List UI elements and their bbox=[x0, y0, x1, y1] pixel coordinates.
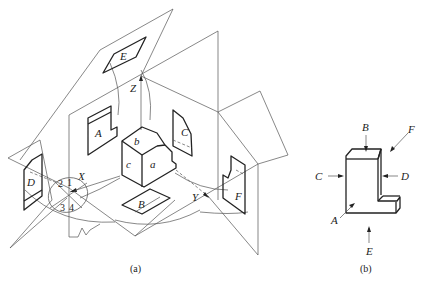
svg-text:E: E bbox=[119, 50, 127, 62]
svg-text:b: b bbox=[134, 135, 140, 147]
svg-text:A: A bbox=[330, 214, 338, 226]
z-arrow-icon bbox=[139, 75, 143, 81]
axes: Z X Y bbox=[70, 75, 209, 203]
arrow-e-icon bbox=[367, 226, 371, 232]
caption-b: (b) bbox=[360, 263, 372, 275]
svg-text:E: E bbox=[365, 245, 373, 257]
view-direction-arrows: B F C D A E bbox=[315, 121, 415, 257]
projection-e: E bbox=[103, 37, 146, 73]
svg-text:B: B bbox=[362, 121, 369, 133]
z-axis-label: Z bbox=[130, 82, 137, 94]
arrow-f-icon bbox=[390, 146, 395, 152]
projection-planes bbox=[8, 9, 288, 255]
projection-diagram: Z X Y 2 1 3 4 E A C bbox=[0, 0, 421, 283]
svg-text:2: 2 bbox=[58, 178, 63, 189]
svg-text:C: C bbox=[315, 170, 323, 182]
svg-text:F: F bbox=[407, 123, 415, 135]
svg-text:3: 3 bbox=[60, 202, 65, 213]
projection-d: D bbox=[24, 154, 42, 210]
svg-text:C: C bbox=[181, 126, 189, 138]
projection-c: C bbox=[173, 110, 192, 156]
svg-text:D: D bbox=[26, 176, 35, 188]
arrow-a-icon bbox=[349, 203, 355, 208]
projection-a: A bbox=[88, 106, 117, 155]
svg-text:B: B bbox=[138, 198, 145, 210]
y-axis-label: Y bbox=[192, 191, 200, 203]
svg-text:4: 4 bbox=[69, 202, 74, 213]
svg-text:a: a bbox=[150, 158, 156, 170]
svg-text:F: F bbox=[234, 190, 242, 202]
projection-b: B bbox=[122, 189, 170, 214]
main-object: b c a bbox=[122, 127, 176, 187]
arrow-c-icon bbox=[338, 174, 344, 178]
caption-a: (a) bbox=[130, 263, 141, 275]
projection-f: F bbox=[223, 156, 245, 214]
svg-text:c: c bbox=[126, 158, 131, 170]
arrow-d-icon bbox=[382, 174, 388, 178]
svg-text:1: 1 bbox=[67, 177, 72, 188]
x-arrow-icon bbox=[70, 188, 77, 192]
svg-text:A: A bbox=[94, 127, 102, 139]
x-axis-label: X bbox=[77, 170, 86, 182]
svg-text:D: D bbox=[400, 170, 409, 182]
